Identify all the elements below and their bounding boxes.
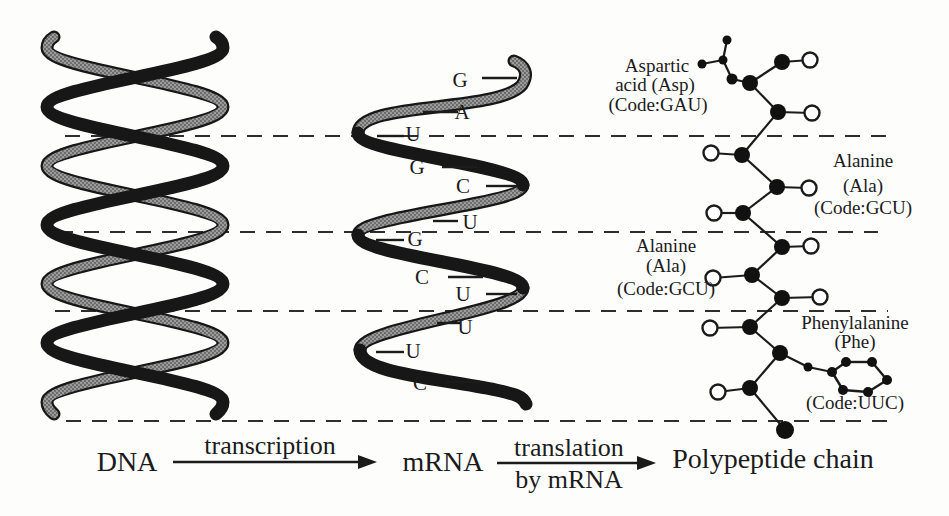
aa-name-line: acid (Asp)	[615, 74, 695, 96]
mrna-base-letters: G A U G C U G C U U U C	[405, 68, 477, 395]
aa-name-line: Phenylalanine	[801, 312, 909, 333]
aa-name-line: Alanine	[636, 235, 696, 256]
translation-label-bottom: by mRNA	[515, 465, 623, 494]
aa-name-line: (Phe)	[834, 331, 875, 353]
chain-terminal-atom	[776, 421, 794, 439]
translation-arrow: translation by mRNA	[497, 433, 656, 494]
dna-double-helix	[47, 37, 223, 414]
aa-name-line: Aspartic	[625, 55, 689, 76]
process-flow: DNA transcription mRNA translation by mR…	[97, 431, 874, 494]
aa-codon-code: (Code:GCU)	[617, 278, 715, 300]
central-dogma-diagram: G A U G C U G C U U U C	[0, 0, 949, 516]
base-letter: C	[415, 265, 429, 289]
aa-codon-code: (Code:GAU)	[608, 94, 707, 116]
mrna-front-segments	[358, 133, 526, 404]
base-letter: G	[407, 227, 422, 251]
aa-codon-code: (Code:GCU)	[814, 197, 912, 219]
base-letter: A	[454, 100, 470, 124]
translation-arrow-head	[637, 456, 656, 470]
base-letter: C	[413, 371, 427, 395]
polypeptide-chain	[698, 36, 893, 440]
mrna-back-segments	[358, 61, 525, 350]
aa-codon-code: (Code:UUC)	[806, 392, 904, 414]
translation-label-top: translation	[514, 433, 624, 462]
aa-name-line: Alanine	[833, 150, 893, 171]
base-letter: U	[405, 122, 420, 146]
transcription-arrow: transcription	[173, 431, 377, 469]
phenyl-ring-atoms	[804, 357, 893, 397]
amino-acid-labels: Aspartic acid (Asp) (Code:GAU) Alanine (…	[608, 55, 912, 414]
dna-label: DNA	[97, 446, 158, 477]
base-letter: U	[457, 315, 472, 339]
base-letter: U	[462, 210, 477, 234]
transcription-arrow-head	[358, 455, 377, 469]
base-letter: U	[455, 282, 470, 306]
mrna-label: mRNA	[403, 446, 485, 477]
label-alanine-2: Alanine (Ala) (Code:GCU)	[617, 235, 715, 300]
aa-name-line: (Ala)	[646, 255, 686, 277]
label-alanine-1: Alanine (Ala) (Code:GCU)	[814, 150, 912, 219]
label-aspartic-acid: Aspartic acid (Asp) (Code:GAU)	[608, 55, 707, 116]
side-group-open-atoms	[703, 53, 828, 400]
base-letter: G	[409, 155, 424, 179]
polypeptide-label: Polypeptide chain	[672, 443, 873, 474]
transcription-label: transcription	[204, 431, 335, 460]
base-letter: C	[456, 174, 470, 198]
polypeptide-bonds	[702, 40, 887, 430]
backbone-atoms	[734, 54, 794, 439]
aa-name-line: (Ala)	[843, 175, 883, 197]
base-letter: U	[405, 339, 420, 363]
base-letter: G	[452, 68, 467, 92]
central-dogma-figure: G A U G C U G C U U U C	[0, 0, 949, 516]
